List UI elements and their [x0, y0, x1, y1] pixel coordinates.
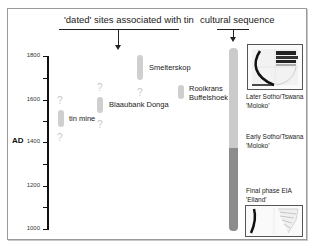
uncertain-start-marker: ? — [97, 82, 103, 93]
sites-arrow-stem — [118, 29, 119, 45]
site-range-bar-tin-mine — [58, 110, 64, 127]
tick-1000 — [43, 229, 47, 230]
tick-1300 — [43, 164, 47, 165]
tick-label: 1800 — [14, 52, 40, 58]
sequence-arrow-down-icon — [230, 37, 236, 42]
tick-1700 — [43, 78, 47, 79]
tick-1800 — [43, 56, 47, 57]
eiland-pottery-image — [245, 205, 303, 237]
sequence-label-final-eia: Final phase EIA — [246, 186, 292, 195]
time-axis — [47, 56, 49, 230]
tick-1600 — [43, 100, 47, 101]
tick-label: 1600 — [14, 96, 40, 102]
tick-1500 — [43, 121, 47, 122]
tick-label: 1000 — [14, 225, 40, 231]
uncertain-start-marker: ? — [57, 95, 63, 106]
site-range-bar-smelterskop — [137, 55, 143, 80]
uncertain-end-marker: ? — [57, 132, 63, 143]
tick-1400 — [43, 142, 47, 143]
sequence-label-later-moloko: 'Moloko' — [246, 101, 269, 110]
sequence-label-later-sotho: Later Sotho/Tswana — [246, 92, 303, 101]
tick-label: 1200 — [14, 182, 40, 188]
sequence-header: cultural sequence — [200, 14, 274, 25]
site-range-bar-rooikrans — [178, 85, 184, 99]
sites-header: 'dated' sites associated with tin — [64, 14, 194, 25]
pottery-sherd-icon — [248, 45, 302, 89]
site-label-tin-mine: tin mine — [69, 114, 95, 124]
tick-1100 — [43, 207, 47, 208]
tick-label: 1400 — [14, 138, 40, 144]
sites-header-rule — [59, 29, 179, 30]
sequence-label-eiland: 'Eiland' — [246, 195, 267, 204]
site-label-buffelshoek: Buffelshoek — [189, 93, 228, 103]
tick-1200 — [43, 186, 47, 187]
uncertain-end-marker: ? — [137, 87, 143, 98]
pottery-sherd-icon — [246, 206, 302, 236]
site-label-smelterskop: Smelterskop — [149, 63, 191, 73]
sequence-label-early-sotho: Early Sotho/Tswana — [246, 132, 303, 141]
sequence-label-early-moloko: 'Moloko' — [246, 141, 269, 150]
sequence-bar-eia — [229, 148, 238, 231]
site-range-bar-blaaubank-donga — [97, 97, 103, 113]
uncertain-end-marker: ? — [97, 119, 103, 130]
sites-arrow-down-icon — [115, 45, 121, 50]
site-label-blaaubank-donga: Blaaubank Donga — [109, 100, 169, 110]
moloko-pottery-image — [247, 44, 303, 90]
